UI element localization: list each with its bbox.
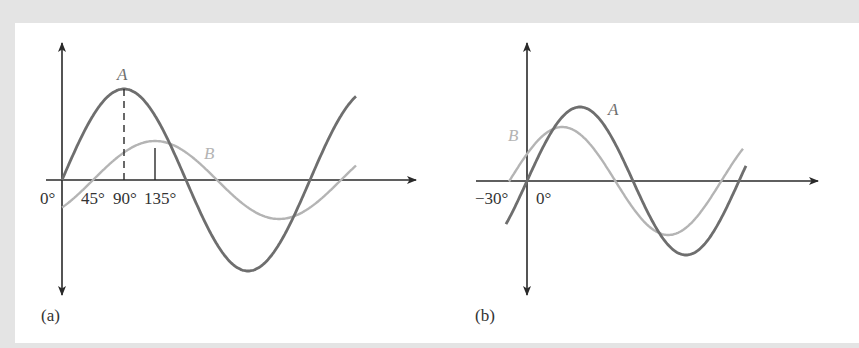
caption-b: (b) <box>475 307 495 324</box>
caption-a: (a) <box>41 307 60 324</box>
wave-b-label-a: B <box>204 145 214 162</box>
tick-label-90: 90° <box>113 190 137 207</box>
phase-diagram <box>0 0 859 348</box>
tick-label-135: 135° <box>144 190 176 207</box>
tick-label-0: 0° <box>40 190 55 207</box>
figure-a <box>46 43 416 295</box>
figure-b <box>476 43 818 295</box>
wave-a-label-a: A <box>117 66 127 83</box>
wave-a-label-b: A <box>608 101 618 118</box>
wave-b-label-b: B <box>508 127 518 144</box>
tick-label-neg30: −30° <box>475 190 508 207</box>
tick-label-0-b: 0° <box>536 190 551 207</box>
tick-label-45: 45° <box>81 190 105 207</box>
